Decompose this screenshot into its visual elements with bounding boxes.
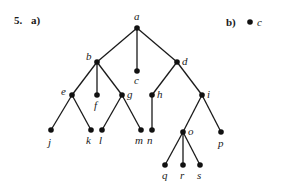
vertex-p: [218, 129, 224, 135]
vertex-label-k: k: [86, 134, 92, 146]
vertex-q: [162, 162, 168, 168]
tree-nodes: abcdefghijklmnopqrs: [46, 10, 224, 181]
vertex-label-n: n: [147, 134, 153, 146]
vertex-label-a: a: [134, 10, 140, 22]
b-vertex-c: [247, 19, 253, 25]
vertex-r: [180, 162, 186, 168]
vertex-a: [134, 25, 140, 31]
edge-g-l: [102, 95, 122, 130]
vertex-c: [134, 68, 140, 74]
vertex-o: [180, 129, 186, 135]
b-vertex-label-c: c: [257, 16, 262, 28]
vertex-label-j: j: [46, 136, 51, 148]
vertex-label-q: q: [162, 169, 168, 181]
vertex-j: [48, 127, 54, 133]
part-a-label: a): [31, 14, 41, 27]
tree-b-nodes: c: [247, 16, 262, 28]
vertex-label-d: d: [182, 55, 188, 67]
edge-a-d: [137, 28, 177, 62]
vertex-label-p: p: [217, 137, 224, 149]
vertex-f: [94, 92, 100, 98]
vertex-s: [197, 162, 203, 168]
edge-e-k: [72, 95, 91, 130]
edge-e-j: [51, 95, 72, 130]
edge-i-p: [202, 95, 221, 132]
vertex-d: [174, 59, 180, 65]
tree-diagram: 5. a) b) abcdefghijklmnopqrs c: [0, 0, 288, 190]
vertex-b: [94, 59, 100, 65]
vertex-label-f: f: [94, 99, 99, 111]
vertex-label-g: g: [127, 88, 133, 100]
vertex-l: [99, 127, 105, 133]
vertex-label-r: r: [180, 169, 185, 181]
vertex-label-l: l: [99, 134, 102, 146]
vertex-i: [199, 92, 205, 98]
vertex-label-m: m: [135, 134, 143, 146]
edge-g-m: [122, 95, 141, 130]
vertex-e: [69, 92, 75, 98]
vertex-label-b: b: [86, 50, 92, 62]
vertex-n: [149, 127, 155, 133]
part-b-label: b): [226, 16, 236, 29]
vertex-label-c: c: [134, 74, 139, 86]
vertex-m: [138, 127, 144, 133]
edge-d-h: [152, 62, 177, 95]
vertex-label-e: e: [61, 85, 66, 97]
vertex-g: [119, 92, 125, 98]
vertex-label-i: i: [207, 88, 210, 100]
vertex-label-h: h: [157, 88, 163, 100]
vertex-label-o: o: [188, 125, 194, 137]
figure-canvas: 5. a) b) abcdefghijklmnopqrs c: [0, 0, 288, 190]
edge-d-i: [177, 62, 202, 95]
edge-b-e: [72, 62, 97, 95]
vertex-k: [88, 127, 94, 133]
problem-number: 5.: [14, 14, 23, 26]
edge-b-g: [97, 62, 122, 95]
vertex-h: [149, 92, 155, 98]
vertex-label-s: s: [197, 169, 201, 181]
edge-o-q: [165, 132, 183, 165]
edge-a-b: [97, 28, 137, 62]
